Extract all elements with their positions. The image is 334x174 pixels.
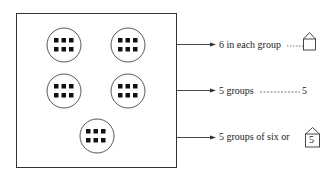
- grouping-diagram: [0, 0, 334, 174]
- label-groups: 5 groups: [219, 85, 254, 97]
- group-3: [47, 74, 81, 108]
- group-4: [111, 74, 145, 108]
- label-groups-of-six: 5 groups of six or: [219, 131, 290, 143]
- house-box-value: 5: [309, 134, 314, 146]
- groups-frame: [17, 14, 177, 168]
- arrow-1: [176, 43, 216, 47]
- arrow-2: [176, 89, 216, 93]
- group-1: [47, 28, 81, 62]
- label-each-group: 6 in each group: [219, 39, 281, 51]
- group-5: [80, 119, 114, 153]
- group-2: [111, 28, 145, 62]
- arrow-3: [176, 136, 216, 140]
- label-groups-value: 5: [302, 85, 307, 97]
- house-box-empty-icon: [304, 33, 316, 51]
